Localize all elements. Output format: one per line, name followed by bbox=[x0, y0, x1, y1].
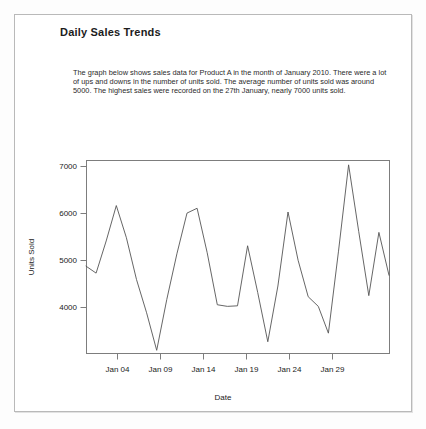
page-title: Daily Sales Trends bbox=[60, 26, 161, 38]
page-canvas: Daily Sales Trends The graph below shows… bbox=[0, 0, 426, 429]
document-paragraph: The graph below shows sales data for Pro… bbox=[73, 68, 391, 96]
